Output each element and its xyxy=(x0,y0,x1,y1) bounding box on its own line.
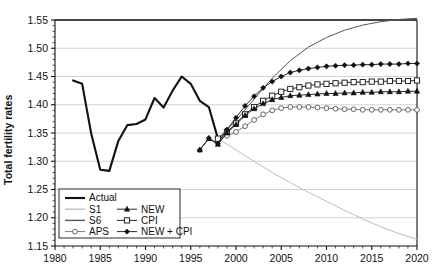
data-point-marker xyxy=(324,106,329,111)
data-point-marker xyxy=(279,106,284,111)
x-axis-tick-labels: 198019851990199520002005201020152020 xyxy=(43,252,429,264)
x-tick-label: 1990 xyxy=(134,252,158,264)
data-point-marker xyxy=(414,78,419,83)
data-point-marker xyxy=(297,105,302,110)
data-point-marker xyxy=(297,85,302,90)
legend-label-new: NEW xyxy=(141,204,165,215)
data-point-marker xyxy=(378,79,383,84)
data-point-marker xyxy=(387,107,392,112)
legend-label-cpi: CPI xyxy=(141,215,158,226)
data-point-marker xyxy=(315,82,320,87)
data-point-marker xyxy=(243,124,248,129)
y-axis-title: Total fertility rates xyxy=(2,95,14,185)
data-point-marker xyxy=(378,107,383,112)
data-point-marker xyxy=(252,118,257,123)
data-point-marker xyxy=(288,105,293,110)
data-point-marker xyxy=(387,78,392,83)
y-tick-label: 1.15 xyxy=(28,240,49,252)
x-tick-label: 1980 xyxy=(43,252,67,264)
y-tick-label: 1.55 xyxy=(28,14,49,26)
data-point-marker xyxy=(360,107,365,112)
y-tick-label: 1.50 xyxy=(28,42,49,54)
y-axis-tick-labels: 1.151.201.251.301.351.401.451.501.55 xyxy=(28,14,49,252)
data-point-marker xyxy=(315,105,320,110)
data-point-marker xyxy=(261,112,266,117)
data-point-marker xyxy=(73,229,78,234)
data-point-marker xyxy=(396,78,401,83)
data-point-marker xyxy=(324,81,329,86)
chart-figure: 198019851990199520002005201020152020 1.1… xyxy=(0,0,434,275)
data-point-marker xyxy=(405,78,410,83)
data-point-marker xyxy=(234,129,239,134)
x-tick-label: 2020 xyxy=(405,252,429,264)
x-tick-label: 2005 xyxy=(270,252,294,264)
y-tick-label: 1.20 xyxy=(28,211,49,223)
data-point-marker xyxy=(415,107,420,112)
data-point-marker xyxy=(279,89,284,94)
legend-label-new_cpi: NEW + CPI xyxy=(141,226,192,237)
x-tick-label: 1985 xyxy=(89,252,113,264)
y-tick-label: 1.45 xyxy=(28,70,49,82)
data-point-marker xyxy=(270,108,275,113)
x-tick-label: 2010 xyxy=(315,252,339,264)
data-point-marker xyxy=(397,107,402,112)
y-tick-label: 1.35 xyxy=(28,127,49,139)
chart-legend: ActualS1S6APSNEWCPINEW + CPI xyxy=(59,189,192,238)
x-tick-label: 1995 xyxy=(179,252,203,264)
x-tick-label: 2015 xyxy=(360,252,384,264)
legend-label-actual: Actual xyxy=(89,192,117,203)
data-point-marker xyxy=(351,107,356,112)
data-point-marker xyxy=(333,106,338,111)
data-point-marker xyxy=(369,107,374,112)
data-point-marker xyxy=(124,218,129,223)
data-point-marker xyxy=(306,83,311,88)
data-point-marker xyxy=(288,86,293,91)
data-point-marker xyxy=(369,79,374,84)
data-point-marker xyxy=(342,80,347,85)
data-point-marker xyxy=(351,80,356,85)
data-point-marker xyxy=(406,107,411,112)
legend-label-aps: APS xyxy=(89,226,109,237)
y-tick-label: 1.40 xyxy=(28,98,49,110)
legend-label-s6: S6 xyxy=(89,215,102,226)
y-tick-label: 1.25 xyxy=(28,183,49,195)
y-tick-label: 1.30 xyxy=(28,155,49,167)
data-point-marker xyxy=(333,81,338,86)
data-point-marker xyxy=(360,80,365,85)
chart-canvas: 198019851990199520002005201020152020 1.1… xyxy=(0,0,434,275)
data-point-marker xyxy=(342,107,347,112)
data-point-marker xyxy=(306,105,311,110)
legend-label-s1: S1 xyxy=(89,204,102,215)
x-tick-label: 2000 xyxy=(224,252,248,264)
